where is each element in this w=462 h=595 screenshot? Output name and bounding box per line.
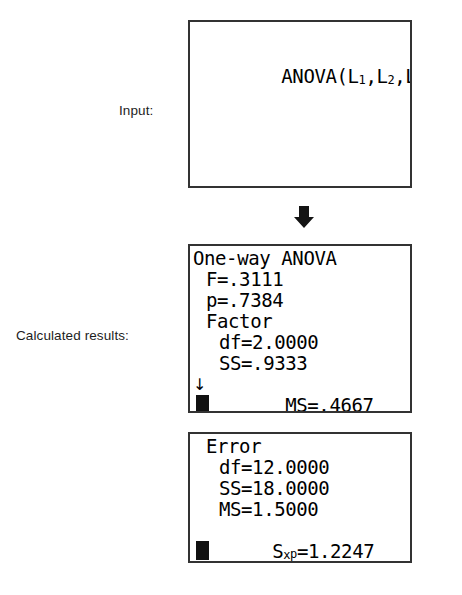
- result-line-error-df: df=12.0000: [193, 457, 410, 478]
- result-line-factor-ss: SS=.9333: [193, 353, 410, 374]
- command-segment: ,L: [394, 65, 412, 87]
- input-screen-content: ANOVA(L1,L2,L3): [190, 22, 410, 45]
- command-segment: ,L: [365, 65, 387, 87]
- result-line-factor-ms-text: MS=.4667: [285, 394, 373, 413]
- calculated-results-label: Calculated results:: [16, 328, 129, 343]
- result-line-p: p=.7384: [193, 290, 410, 311]
- input-label: Input:: [119, 103, 153, 118]
- calculator-error-results-screen: Error df=12.0000 SS=18.0000 MS=1.5000 Sx…: [188, 432, 412, 563]
- result-line-error-ms: MS=1.5000: [193, 499, 410, 520]
- input-command-line: ANOVA(L1,L2,L3): [193, 24, 410, 45]
- result-line-sxp: Sxp=1.2247: [193, 520, 410, 541]
- sxp-value: =1.2247: [297, 540, 374, 562]
- sxp-p-subscript: p: [290, 547, 297, 561]
- calculator-input-screen: ANOVA(L1,L2,L3): [188, 20, 412, 188]
- factor-screen-content: One-way ANOVA F=.3111 p=.7384 Factor df=…: [190, 246, 410, 413]
- cursor-block: [196, 395, 209, 413]
- command-segment: ANOVA(L: [281, 65, 358, 87]
- scroll-down-icon: ↓: [193, 374, 206, 395]
- result-line-factor-ms: ↓MS=.4667: [193, 374, 410, 395]
- result-line-factor-heading: Factor: [193, 311, 410, 332]
- calculator-factor-results-screen: One-way ANOVA F=.3111 p=.7384 Factor df=…: [188, 244, 412, 413]
- result-line-factor-df: df=2.0000: [193, 332, 410, 353]
- result-line-error-ss: SS=18.0000: [193, 478, 410, 499]
- error-screen-content: Error df=12.0000 SS=18.0000 MS=1.5000 Sx…: [190, 434, 410, 562]
- result-line-error-heading: Error: [193, 436, 410, 457]
- sxp-s: S: [272, 540, 283, 562]
- result-line-f: F=.3111: [193, 269, 410, 290]
- result-line-title: One-way ANOVA: [193, 248, 410, 269]
- arrow-down-icon: [291, 204, 317, 230]
- input-command-text: ANOVA(L1,L2,L3): [193, 65, 412, 87]
